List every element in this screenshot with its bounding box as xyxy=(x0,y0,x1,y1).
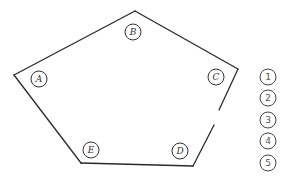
slot-label: 3 xyxy=(265,115,271,125)
node-label: E xyxy=(87,145,95,155)
node-label: A xyxy=(35,74,43,84)
edge-e-a xyxy=(14,75,81,163)
node-c[interactable]: C xyxy=(208,69,224,85)
slot-label: 4 xyxy=(265,136,271,146)
pentagon-diagram: ABCDE 12345 xyxy=(0,0,292,183)
edge-b-c xyxy=(135,11,238,69)
slot-label: 5 xyxy=(265,158,271,168)
node-b[interactable]: B xyxy=(125,24,141,40)
edge-d-e xyxy=(81,163,193,166)
node-label: D xyxy=(175,146,183,156)
node-label: C xyxy=(213,72,220,82)
slot-label: 2 xyxy=(265,93,271,103)
numbered-slot-3[interactable]: 3 xyxy=(260,112,276,128)
node-a[interactable]: A xyxy=(31,71,47,87)
numbered-slot-group: 12345 xyxy=(260,69,276,171)
node-e[interactable]: E xyxy=(83,142,99,158)
slot-label: 1 xyxy=(265,72,271,82)
edge-a-b xyxy=(14,11,135,75)
numbered-slot-1[interactable]: 1 xyxy=(260,69,276,85)
numbered-slot-5[interactable]: 5 xyxy=(260,155,276,171)
node-d[interactable]: D xyxy=(172,143,188,159)
node-label: B xyxy=(129,27,137,37)
edge-c-d-lower xyxy=(193,125,214,166)
numbered-slot-4[interactable]: 4 xyxy=(260,133,276,149)
numbered-slot-2[interactable]: 2 xyxy=(260,90,276,106)
